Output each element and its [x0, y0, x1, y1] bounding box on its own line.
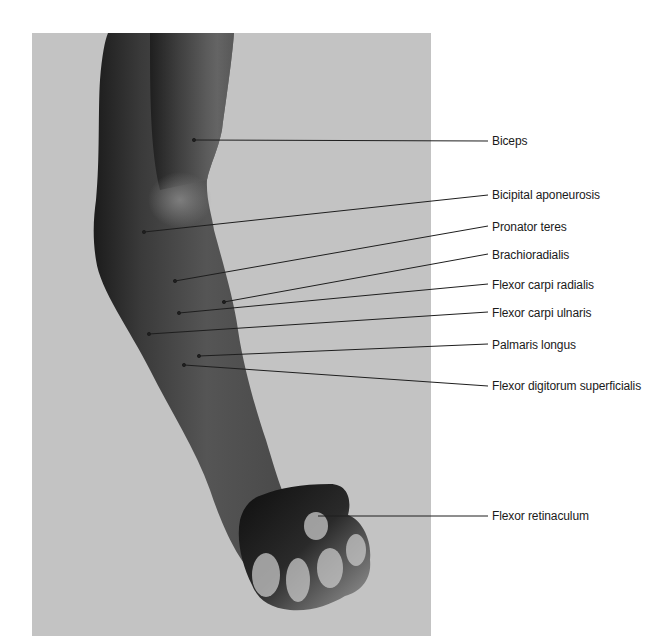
upper-arm-shading: [150, 33, 234, 190]
label-flexor-carpi-radialis: Flexor carpi radialis: [492, 278, 594, 292]
label-biceps: Biceps: [492, 134, 527, 148]
elbow-highlight: [148, 172, 212, 228]
label-flexor-retinaculum: Flexor retinaculum: [492, 509, 589, 523]
label-flexor-carpi-ulnaris: Flexor carpi ulnaris: [492, 306, 591, 320]
label-brachioradialis: Brachioradialis: [492, 248, 569, 262]
label-pronator-teres: Pronator teres: [492, 220, 567, 234]
label-bicipital-aponeurosis: Bicipital aponeurosis: [492, 188, 600, 202]
label-flexor-digitorum-superficialis: Flexor digitorum superficialis: [492, 379, 641, 393]
anatomy-figure: Biceps Bicipital aponeurosis Pronator te…: [0, 0, 658, 636]
label-palmaris-longus: Palmaris longus: [492, 338, 576, 352]
leader-biceps: [192, 138, 488, 141]
